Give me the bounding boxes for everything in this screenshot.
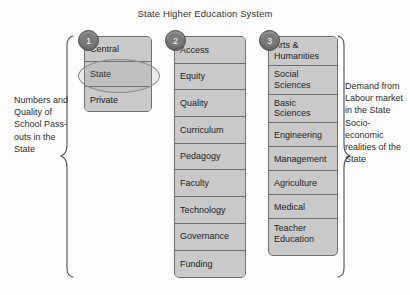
cell-label: Social Sciences [274, 69, 334, 90]
cell-agriculture[interactable]: Agriculture [269, 171, 337, 195]
cell-curriculum[interactable]: Curriculum [175, 117, 245, 144]
column-system-dimensions: Access Equity Quality Curriculum Pedagog… [174, 36, 246, 278]
cell-social-sciences[interactable]: Social Sciences [269, 66, 337, 95]
cell-state[interactable]: State [85, 62, 151, 87]
cell-label: Faculty [180, 178, 209, 189]
cell-governance[interactable]: Governance [175, 224, 245, 251]
cell-label: Teacher Education [274, 223, 334, 244]
left-caption-text: Numbers and Quality of School Pass-outs … [14, 94, 70, 155]
step-number-3[interactable]: 3 [259, 30, 280, 51]
cell-label: State [90, 69, 111, 80]
cell-label: Agriculture [274, 178, 317, 189]
right-caption-text: Demand from Labour market in the State S… [345, 80, 405, 165]
cell-quality[interactable]: Quality [175, 90, 245, 117]
step-number-2[interactable]: 2 [165, 30, 186, 51]
cell-basic-sciences[interactable]: Basic Sciences [269, 95, 337, 124]
cell-label: Medical [274, 202, 305, 213]
cell-label: Technology [180, 205, 226, 216]
diagram-title: State Higher Education System [0, 8, 410, 19]
column-disciplines: Arts & Humanities Social Sciences Basic … [268, 36, 338, 256]
cell-label: Arts & Humanities [274, 40, 334, 61]
cell-private[interactable]: Private [85, 87, 151, 112]
cell-technology[interactable]: Technology [175, 197, 245, 224]
cell-medical[interactable]: Medical [269, 195, 337, 219]
step-number-1[interactable]: 1 [78, 30, 99, 51]
cell-faculty[interactable]: Faculty [175, 170, 245, 197]
cell-label: Management [274, 154, 327, 165]
cell-label: Equity [180, 71, 205, 82]
cell-equity[interactable]: Equity [175, 64, 245, 91]
cell-teacher-education[interactable]: Teacher Education [269, 219, 337, 248]
cell-label: Curriculum [180, 125, 224, 136]
cell-management[interactable]: Management [269, 147, 337, 171]
cell-label: Engineering [274, 130, 322, 141]
cell-label: Governance [180, 231, 229, 242]
cell-label: Funding [180, 259, 213, 270]
cell-label: Pedagogy [180, 151, 221, 162]
cell-engineering[interactable]: Engineering [269, 123, 337, 147]
cell-label: Quality [180, 98, 208, 109]
cell-funding[interactable]: Funding [175, 251, 245, 278]
left-curly-brace-icon [61, 36, 73, 277]
cell-pedagogy[interactable]: Pedagogy [175, 144, 245, 171]
cell-label: Private [90, 95, 118, 106]
cell-label: Basic Sciences [274, 98, 334, 119]
diagram-canvas: State Higher Education System Numbers an… [0, 0, 410, 295]
